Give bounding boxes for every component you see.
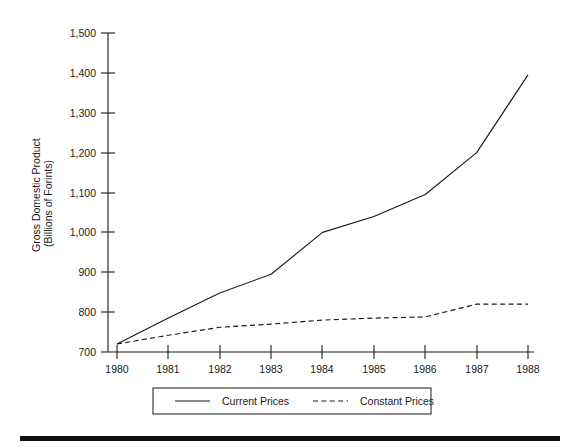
x-axis-ticks: 1980 1981 1982 1983 1984 1985 1986 1987 … (105, 345, 540, 375)
gdp-line-chart: Gross Domestic Product (Billions of Fori… (0, 0, 580, 447)
footer-divider (20, 436, 560, 441)
x-tick-label: 1987 (465, 363, 489, 375)
x-tick-label: 1985 (362, 363, 386, 375)
y-axis-title: Gross Domestic Product (Billions of Fori… (30, 138, 54, 252)
chart-legend: Current Prices Constant Prices (153, 388, 434, 414)
y-axis-title-line2: (Billions of Forints) (42, 160, 54, 247)
y-tick-label: 1,000 (70, 226, 96, 238)
y-tick-label: 800 (78, 306, 96, 318)
series-line-constant-prices (117, 304, 528, 344)
chart-figure: Gross Domestic Product (Billions of Fori… (0, 0, 580, 447)
x-tick-label: 1983 (259, 363, 283, 375)
x-tick-label: 1981 (156, 363, 180, 375)
x-tick-label: 1982 (208, 363, 232, 375)
legend-label-constant-prices: Constant Prices (360, 395, 434, 407)
x-tick-label: 1986 (413, 363, 437, 375)
y-tick-label: 1,300 (70, 107, 96, 119)
x-tick-label: 1980 (105, 363, 129, 375)
y-tick-label: 1,500 (70, 27, 96, 39)
y-tick-label: 1,100 (70, 187, 96, 199)
x-tick-label: 1988 (516, 363, 540, 375)
y-tick-label: 1,400 (70, 67, 96, 79)
series-line-current-prices (117, 75, 528, 344)
y-tick-label: 900 (78, 266, 96, 278)
legend-label-current-prices: Current Prices (222, 395, 289, 407)
y-tick-label: 1,200 (70, 147, 96, 159)
y-tick-label: 700 (78, 346, 96, 358)
y-axis-title-line1: Gross Domestic Product (30, 138, 42, 252)
x-tick-label: 1984 (310, 363, 334, 375)
